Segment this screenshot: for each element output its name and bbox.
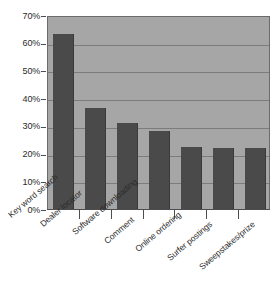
y-tick-mark xyxy=(41,44,46,45)
bar-chart-figure: 0%10%20%30%40%50%60%70% Key word searchD… xyxy=(0,0,279,291)
bar[interactable] xyxy=(85,108,106,209)
bar[interactable] xyxy=(53,34,74,209)
y-tick-mark xyxy=(41,99,46,100)
y-tick-label: 30% xyxy=(2,122,40,131)
bar[interactable] xyxy=(213,148,234,209)
y-tick-label: 50% xyxy=(2,67,40,76)
bars-group xyxy=(48,17,269,209)
y-tick-mark xyxy=(41,210,46,211)
bar[interactable] xyxy=(149,131,170,209)
y-tick-label: 20% xyxy=(2,150,40,159)
bar[interactable] xyxy=(245,148,266,209)
bar[interactable] xyxy=(181,147,202,209)
y-tick-mark xyxy=(41,71,46,72)
x-axis: Key word searchDealer locatorSoftware do… xyxy=(0,212,279,291)
y-tick-label: 10% xyxy=(2,178,40,187)
x-tick-label: Comment xyxy=(102,215,136,246)
y-tick-label: 60% xyxy=(2,39,40,48)
y-tick-label: 70% xyxy=(2,12,40,21)
y-tick-mark xyxy=(41,16,46,17)
y-tick-mark xyxy=(41,127,46,128)
y-tick-mark xyxy=(41,155,46,156)
x-axis-line xyxy=(47,209,270,210)
plot-area xyxy=(47,16,270,210)
y-tick-label: 40% xyxy=(2,95,40,104)
